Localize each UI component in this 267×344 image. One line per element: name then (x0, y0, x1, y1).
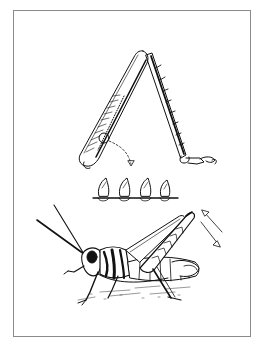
femur-drawing (79, 51, 148, 169)
magnify-arrow (109, 141, 134, 166)
grasshopper-drawing (37, 205, 199, 305)
tibia-drawing (146, 53, 216, 164)
motion-arrows-icon (201, 210, 222, 247)
stridulatory-pegs (93, 178, 178, 201)
illustration (0, 0, 267, 344)
